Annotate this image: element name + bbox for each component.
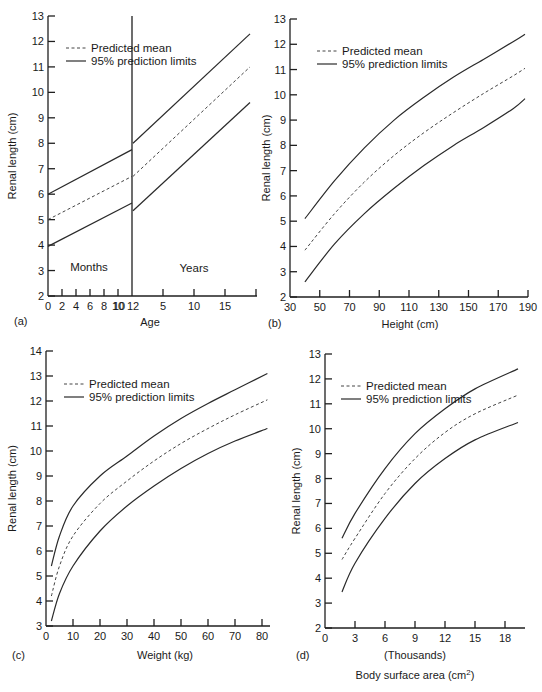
x-tick-label: 0 [45, 300, 51, 312]
legend-limits-label: 95% prediction limits [366, 393, 472, 405]
x-axis-label: Weight (kg) [137, 649, 193, 661]
y-tick-label: 10 [309, 423, 321, 435]
y-axis-label: Renal length (cm) [290, 448, 302, 535]
legend-mean-label: Predicted mean [342, 45, 423, 57]
legend-mean-label: Predicted mean [91, 42, 172, 54]
y-tick-label: 9 [315, 448, 321, 460]
y-tick-label: 13 [30, 370, 42, 382]
panel-a: 23456789101112130246810101251015MonthsYe… [6, 10, 257, 328]
y-tick-label: 7 [36, 520, 42, 532]
y-tick-label: 2 [315, 622, 321, 634]
x-tick-label: 6 [382, 632, 388, 644]
y-tick-label: 6 [280, 190, 286, 202]
x-tick-label: 4 [73, 300, 79, 312]
y-axis-label: Renal length (cm) [6, 113, 18, 200]
panel-label: (d) [296, 649, 309, 661]
x-tick-label: 10 [188, 300, 200, 312]
y-tick-label: 10 [274, 89, 286, 101]
lower-limit-line [305, 99, 525, 282]
legend-mean-label: Predicted mean [366, 380, 447, 392]
y-tick-label: 11 [33, 61, 44, 73]
panel-label: (c) [12, 649, 25, 661]
x-tick-label: 110 [400, 301, 418, 313]
y-tick-label: 8 [315, 473, 321, 485]
y-tick-label: 14 [30, 345, 42, 357]
x-tick-label: 20 [94, 630, 106, 642]
x-axis-label: Body surface area (cm2) [356, 668, 475, 681]
legend-limits-label: 95% prediction limits [342, 58, 448, 70]
x-tick-label: 190 [519, 301, 537, 313]
x-axis-label: Age [140, 316, 160, 328]
x-tick-label: 6 [87, 300, 93, 312]
x-tick-label: 30 [121, 630, 133, 642]
y-axis-label: Renal length (cm) [6, 445, 18, 532]
months-label: Months [70, 261, 108, 273]
lower-limit-line [342, 423, 518, 592]
x-tick-label: 80 [256, 630, 268, 642]
x-tick-label: 10 [67, 630, 79, 642]
x-axis-label: Height (cm) [382, 318, 439, 330]
x-tick-label: 60 [202, 630, 214, 642]
y-tick-label: 11 [310, 398, 321, 410]
x-tick-label: 12 [127, 300, 139, 312]
panel-b: 234567891011121330507090110130150170190P… [260, 13, 537, 330]
legend-limits-label: 95% prediction limits [91, 55, 197, 67]
y-tick-label: 10 [30, 445, 42, 457]
x-tick-label: 150 [459, 301, 477, 313]
y-tick-label: 11 [275, 64, 286, 76]
y-tick-label: 8 [280, 139, 286, 151]
y-tick-label: 12 [30, 395, 42, 407]
y-tick-label: 2 [38, 290, 44, 302]
years-label: Years [180, 262, 209, 274]
y-tick-label: 6 [38, 188, 44, 200]
mean-line [305, 68, 525, 250]
legend-limits-label: 95% prediction limits [89, 391, 195, 403]
y-tick-label: 8 [38, 137, 44, 149]
x-tick-label: 30 [284, 301, 296, 313]
y-tick-label: 12 [309, 373, 321, 385]
y-tick-label: 4 [280, 240, 286, 252]
y-tick-label: 3 [36, 620, 42, 632]
renal-length-figure: 23456789101112130246810101251015MonthsYe… [0, 0, 542, 692]
y-tick-label: 4 [38, 239, 44, 251]
y-tick-label: 13 [274, 13, 286, 25]
y-tick-label: 3 [280, 266, 286, 278]
x-tick-label: 10 [113, 300, 125, 312]
panel-label: (b) [268, 317, 281, 329]
y-axis-label: Renal length (cm) [260, 115, 272, 202]
x-tick-label: 0 [43, 630, 49, 642]
y-tick-label: 10 [32, 86, 44, 98]
y-tick-label: 11 [31, 420, 42, 432]
y-tick-label: 7 [38, 163, 44, 175]
y-tick-label: 9 [36, 470, 42, 482]
x-tick-label: 50 [314, 301, 326, 313]
y-tick-label: 8 [36, 495, 42, 507]
panel-c: 3456789101112131401020304050607080Predic… [6, 345, 270, 661]
y-tick-label: 9 [38, 112, 44, 124]
x-tick-label: 9 [412, 632, 418, 644]
x-tick-label: 2 [59, 300, 65, 312]
x-axis-sublabel: (Thousands) [384, 649, 446, 661]
months-upper-limit-line [48, 150, 132, 195]
y-tick-label: 5 [315, 547, 321, 559]
y-tick-label: 7 [280, 165, 286, 177]
y-tick-label: 4 [315, 572, 321, 584]
x-tick-label: 18 [499, 632, 511, 644]
months-mean-line [48, 176, 132, 219]
x-tick-label: 12 [439, 632, 451, 644]
y-tick-label: 5 [280, 215, 286, 227]
x-tick-label: 8 [101, 300, 107, 312]
x-tick-label: 170 [489, 301, 507, 313]
x-tick-label: 50 [175, 630, 187, 642]
y-tick-label: 13 [32, 10, 44, 22]
x-tick-label: 40 [148, 630, 160, 642]
y-tick-label: 9 [280, 114, 286, 126]
x-tick-label: 70 [229, 630, 241, 642]
y-tick-label: 12 [274, 38, 286, 50]
x-tick-label: 3 [352, 632, 358, 644]
y-tick-label: 13 [309, 348, 321, 360]
y-tick-label: 4 [36, 595, 42, 607]
y-tick-label: 3 [315, 597, 321, 609]
panel-label: (a) [14, 315, 27, 327]
months-lower-limit-line [48, 203, 132, 246]
